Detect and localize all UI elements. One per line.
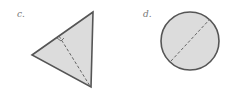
diagram-canvas xyxy=(0,0,237,89)
triangle-figure xyxy=(32,12,93,87)
circle-figure xyxy=(161,12,219,70)
